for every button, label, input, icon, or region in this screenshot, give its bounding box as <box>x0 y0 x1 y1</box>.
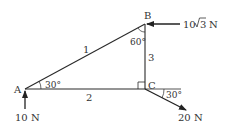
angle-arc-c <box>162 89 164 98</box>
right-angle-marker <box>138 82 145 89</box>
force-label-b: 10 3 N <box>183 18 218 30</box>
member-label-3: 3 <box>148 52 154 63</box>
force-label-b-coef: 10 <box>183 19 196 30</box>
angle-label-b: 60° <box>130 37 146 47</box>
angle-label-a: 30° <box>45 80 61 90</box>
member-label-2: 2 <box>86 92 92 103</box>
force-label-c: 20 N <box>178 112 203 123</box>
node-label-c: C <box>148 80 156 91</box>
angle-arc-b <box>138 28 145 32</box>
force-label-a: 10 N <box>15 112 40 123</box>
node-label-b: B <box>144 10 151 21</box>
node-label-a: A <box>13 84 22 95</box>
angle-label-c: 30° <box>166 90 182 100</box>
member-1 <box>25 24 145 89</box>
force-label-b-root: 3 <box>200 19 206 30</box>
truss-diagram: A B C 1 2 3 30° 60° 30° 10 N 20 N 10 3 N <box>0 0 230 128</box>
angle-arc-a <box>39 81 41 89</box>
member-label-1: 1 <box>83 44 89 55</box>
force-label-b-unit: N <box>209 19 218 30</box>
